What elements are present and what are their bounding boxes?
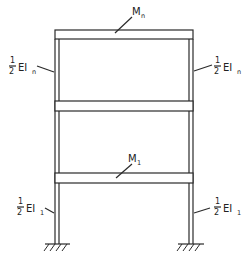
fraction-numerator: 1 bbox=[215, 197, 220, 206]
fraction-numerator: 1 bbox=[18, 197, 23, 206]
mass-symbol: M bbox=[132, 6, 141, 17]
mass-symbol: M bbox=[128, 153, 137, 164]
fraction-numerator: 1 bbox=[10, 56, 15, 65]
stiffness-symbol: EI bbox=[223, 62, 232, 73]
right-column bbox=[189, 39, 193, 244]
stiffness-subscript: n bbox=[32, 68, 36, 76]
stiffness-subscript: 1 bbox=[40, 209, 44, 217]
stiffness-symbol: EI bbox=[18, 62, 27, 73]
mass-subscript: n bbox=[141, 12, 145, 20]
right-fixed-support bbox=[177, 244, 204, 251]
label-upper-left-stiffness: 1 2 EI n bbox=[9, 56, 54, 76]
stiffness-symbol: EI bbox=[26, 203, 35, 214]
fraction-denominator: 2 bbox=[9, 67, 14, 76]
top-beam bbox=[55, 30, 193, 39]
lower-beam bbox=[55, 173, 193, 183]
left-fixed-support bbox=[44, 244, 70, 251]
middle-beam bbox=[55, 101, 193, 111]
left-column bbox=[55, 39, 59, 244]
fraction-numerator: 1 bbox=[215, 56, 220, 65]
multistory-frame-diagram: M n M 1 1 2 EI n 1 2 EI n 1 2 EI 1 1 bbox=[0, 0, 249, 264]
fraction-denominator: 2 bbox=[214, 67, 219, 76]
label-lower-right-stiffness: 1 2 EI 1 bbox=[194, 197, 241, 217]
label-upper-right-stiffness: 1 2 EI n bbox=[194, 56, 241, 76]
label-top-beam-mass: M n bbox=[115, 6, 145, 33]
mass-subscript: 1 bbox=[137, 159, 141, 167]
fraction-denominator: 2 bbox=[17, 208, 22, 217]
label-lower-left-stiffness: 1 2 EI 1 bbox=[17, 197, 54, 217]
stiffness-subscript: 1 bbox=[237, 209, 241, 217]
stiffness-symbol: EI bbox=[223, 203, 232, 214]
stiffness-subscript: n bbox=[237, 68, 241, 76]
fraction-denominator: 2 bbox=[214, 208, 219, 217]
